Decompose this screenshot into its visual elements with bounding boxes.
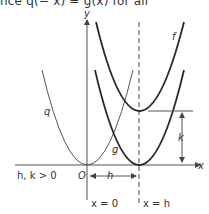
x-equals-0-label: x = 0	[91, 198, 118, 209]
parabola-diagram: y x O f g q k h h, k > 0 x = 0 x = h	[0, 0, 209, 214]
origin-label: O	[78, 170, 86, 181]
k-label: k	[178, 132, 185, 143]
curve-g-label: g	[112, 144, 118, 155]
x-equals-h-label: x = h	[143, 198, 170, 209]
y-axis-label: y	[83, 8, 91, 19]
x-axis-label: x	[197, 160, 204, 171]
h-label: h	[107, 170, 113, 181]
curve-f	[96, 22, 184, 111]
curve-q-label: q	[44, 106, 50, 117]
condition-label: h, k > 0	[17, 170, 57, 181]
curve-f-label: f	[172, 31, 177, 42]
